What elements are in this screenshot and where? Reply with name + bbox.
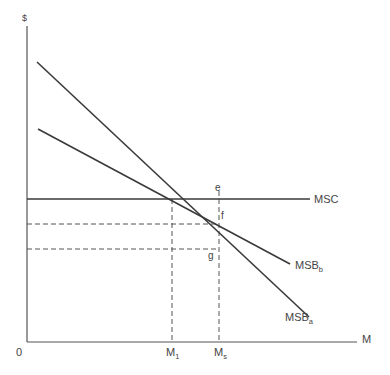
ms-label: Ms: [214, 346, 227, 361]
msc-label: MSC: [314, 193, 339, 205]
msb-a-line: [37, 62, 309, 317]
x-axis-label: M: [362, 333, 371, 345]
point-e-label: e: [215, 182, 221, 193]
y-axis-label: $: [22, 13, 27, 23]
msb-b-label: MSBb: [295, 259, 323, 274]
origin-label: 0: [16, 346, 22, 358]
economics-diagram: $ M 0 MSC MSBb MSBa M1 Ms e f g: [0, 0, 390, 375]
point-g-label: g: [208, 250, 214, 261]
msb-b-line: [38, 129, 290, 264]
m1-label: M1: [166, 346, 179, 361]
msb-a-label: MSBa: [285, 311, 314, 326]
point-f-label: f: [221, 210, 224, 221]
